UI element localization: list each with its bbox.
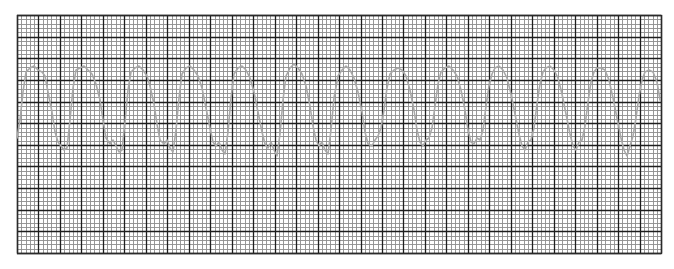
ecg-strip: ECG rhythm strip — [0, 0, 674, 269]
ecg-chart — [0, 0, 674, 269]
